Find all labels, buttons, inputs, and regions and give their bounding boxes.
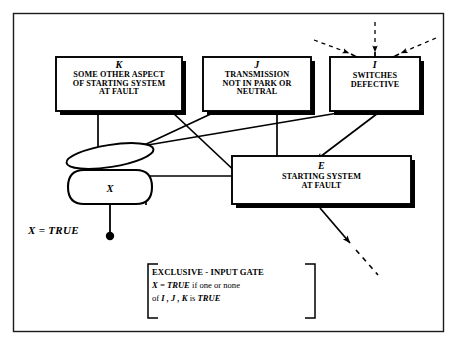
legend-line-2-formula: X = TRUE <box>152 280 190 290</box>
legend-line-3-is: is <box>188 293 198 303</box>
legend-line-3-of: of <box>152 293 161 303</box>
box-k <box>56 57 182 111</box>
box-e <box>232 156 411 204</box>
legend-line-2: X = TRUE if one or none <box>152 279 312 292</box>
output-terminal-dot <box>106 232 114 240</box>
link-e-to-i <box>316 110 382 160</box>
legend-text: EXCLUSIVE - INPUT GATE X = TRUE if one o… <box>152 266 312 305</box>
box-i <box>330 57 420 111</box>
dashed-input-right <box>401 38 436 53</box>
link-e-output <box>320 208 350 243</box>
fault-tree-svg <box>0 0 457 360</box>
gate-lens <box>65 138 155 173</box>
legend-line-2-tail: if one or none <box>190 280 240 290</box>
box-j <box>203 57 311 111</box>
dashed-inputs-to-i <box>314 22 436 53</box>
legend-line-3-vars: I , J , K <box>161 293 187 303</box>
exclusive-input-gate-symbol <box>65 138 155 204</box>
legend-line-1: EXCLUSIVE - INPUT GATE <box>152 266 312 279</box>
dashed-input-left <box>314 40 349 53</box>
legend-line-3-true: TRUE <box>198 293 221 303</box>
link-k-diagonal <box>172 112 240 176</box>
gate-output-label: X = TRUE <box>28 224 79 236</box>
legend-line-3: of I , J , K is TRUE <box>152 292 312 305</box>
gate-x-ident: X <box>84 183 136 194</box>
diagram-canvas: K SOME OTHER ASPECT OF STARTING SYSTEM A… <box>0 0 457 360</box>
link-e-output-dashed <box>356 250 378 275</box>
